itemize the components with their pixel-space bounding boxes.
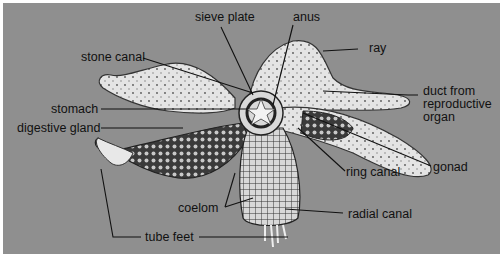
label-stone-canal: stone canal [81, 51, 145, 64]
label-anus: anus [293, 11, 320, 24]
label-gonad: gonad [433, 161, 468, 174]
starfish-anatomy-diagram: sieve plate anus ray stone canal duct fr… [3, 3, 500, 254]
ray-upper-left [99, 63, 235, 113]
label-sieve-plate: sieve plate [195, 11, 255, 24]
ray-tip-left [96, 138, 133, 165]
label-ring-canal: ring canal [346, 166, 400, 179]
label-stomach: stomach [51, 103, 98, 116]
label-digestive-gland: digestive gland [17, 122, 100, 135]
label-tube-feet: tube feet [145, 231, 194, 244]
ray-bottom [240, 128, 300, 226]
tube-feet-bottom [265, 225, 286, 247]
label-coelom: coelom [178, 202, 218, 215]
label-radial-canal: radial canal [348, 208, 412, 221]
leader-coelom-1 [225, 173, 235, 207]
label-ray: ray [369, 42, 386, 55]
leader-tube-feet-left [101, 169, 141, 237]
leader-ray [323, 49, 358, 51]
label-duct-from-reproductive-organ: duct from reproductive organ [423, 85, 500, 124]
